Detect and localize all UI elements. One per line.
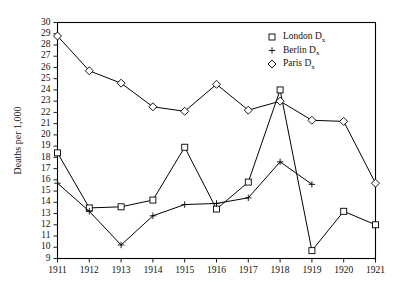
y-tick-label: 12: [41, 219, 51, 229]
y-tick-label: 11: [41, 230, 50, 240]
x-tick-label: 1911: [48, 265, 67, 275]
series-berlin-dx: [54, 159, 315, 249]
x-tick-label: 1919: [302, 265, 321, 275]
square-marker-icon: [55, 150, 61, 156]
diamond-marker-icon: [117, 79, 125, 87]
y-tick-label: 9: [46, 253, 51, 263]
x-tick-label: 1917: [239, 265, 258, 275]
square-marker-icon: [269, 34, 275, 40]
plus-marker-icon: [182, 201, 188, 207]
legend-item-berlin-dx: Berlin Dx: [269, 45, 320, 57]
square-marker-icon: [118, 204, 124, 210]
y-tick-label: 14: [41, 196, 51, 206]
square-marker-icon: [373, 222, 379, 228]
y-tick-label: 10: [41, 241, 51, 251]
series-line: [58, 36, 376, 183]
x-axis-ticks: 1911191219131914191519161917191819191920…: [48, 259, 385, 275]
x-tick-label: 1912: [80, 265, 99, 275]
x-tick-label: 1914: [143, 265, 162, 275]
y-axis-ticks: 9101112131415161718192021222324252627282…: [41, 17, 58, 263]
y-tick-label: 29: [41, 28, 51, 38]
plot-border: [58, 23, 376, 259]
y-tick-label: 19: [41, 140, 51, 150]
series-paris-dx: [54, 32, 380, 187]
y-tick-label: 28: [41, 39, 51, 49]
y-tick-label: 21: [41, 118, 51, 128]
square-marker-icon: [309, 248, 315, 254]
chart-legend: London DxBerlin DxParis Dx: [268, 31, 326, 70]
y-tick-label: 16: [41, 174, 51, 184]
y-tick-label: 27: [41, 50, 51, 60]
square-marker-icon: [150, 197, 156, 203]
chart-container: 9101112131415161718192021222324252627282…: [0, 0, 406, 294]
series-london-dx: [55, 87, 379, 254]
square-marker-icon: [214, 206, 220, 212]
y-tick-label: 25: [41, 73, 51, 83]
y-tick-label: 18: [41, 152, 51, 162]
legend-label: London Dx: [283, 31, 326, 43]
y-tick-label: 17: [41, 163, 51, 173]
y-tick-label: 23: [41, 95, 51, 105]
legend-item-paris-dx: Paris Dx: [268, 58, 315, 70]
x-tick-label: 1921: [366, 265, 385, 275]
axis-titles: Deaths per 1,000: [12, 106, 23, 174]
x-tick-label: 1913: [112, 265, 131, 275]
legend-item-london-dx: London Dx: [269, 31, 326, 43]
line-chart: 9101112131415161718192021222324252627282…: [0, 0, 406, 294]
square-marker-icon: [277, 87, 283, 93]
x-tick-label: 1916: [207, 265, 226, 275]
x-tick-label: 1920: [334, 265, 353, 275]
plus-marker-icon: [309, 181, 315, 187]
legend-label: Paris Dx: [283, 58, 315, 70]
diamond-marker-icon: [268, 60, 276, 68]
series-line: [58, 90, 376, 251]
y-tick-label: 26: [41, 62, 51, 72]
y-axis-title: Deaths per 1,000: [12, 106, 23, 174]
y-tick-label: 24: [41, 84, 51, 94]
diamond-marker-icon: [340, 117, 348, 125]
y-tick-label: 20: [41, 129, 51, 139]
series-layer: [54, 32, 380, 254]
square-marker-icon: [182, 144, 188, 150]
legend-label: Berlin Dx: [283, 45, 320, 57]
y-tick-label: 15: [41, 185, 51, 195]
diamond-marker-icon: [372, 179, 380, 187]
plot-frame: [58, 23, 376, 259]
x-tick-label: 1918: [271, 265, 290, 275]
diamond-marker-icon: [149, 103, 157, 111]
square-marker-icon: [245, 179, 251, 185]
x-tick-label: 1915: [175, 265, 194, 275]
square-marker-icon: [341, 208, 347, 214]
plus-marker-icon: [269, 47, 275, 53]
y-tick-label: 13: [41, 208, 51, 218]
y-tick-label: 22: [41, 107, 51, 117]
y-tick-label: 30: [41, 17, 51, 27]
diamond-marker-icon: [308, 116, 316, 124]
